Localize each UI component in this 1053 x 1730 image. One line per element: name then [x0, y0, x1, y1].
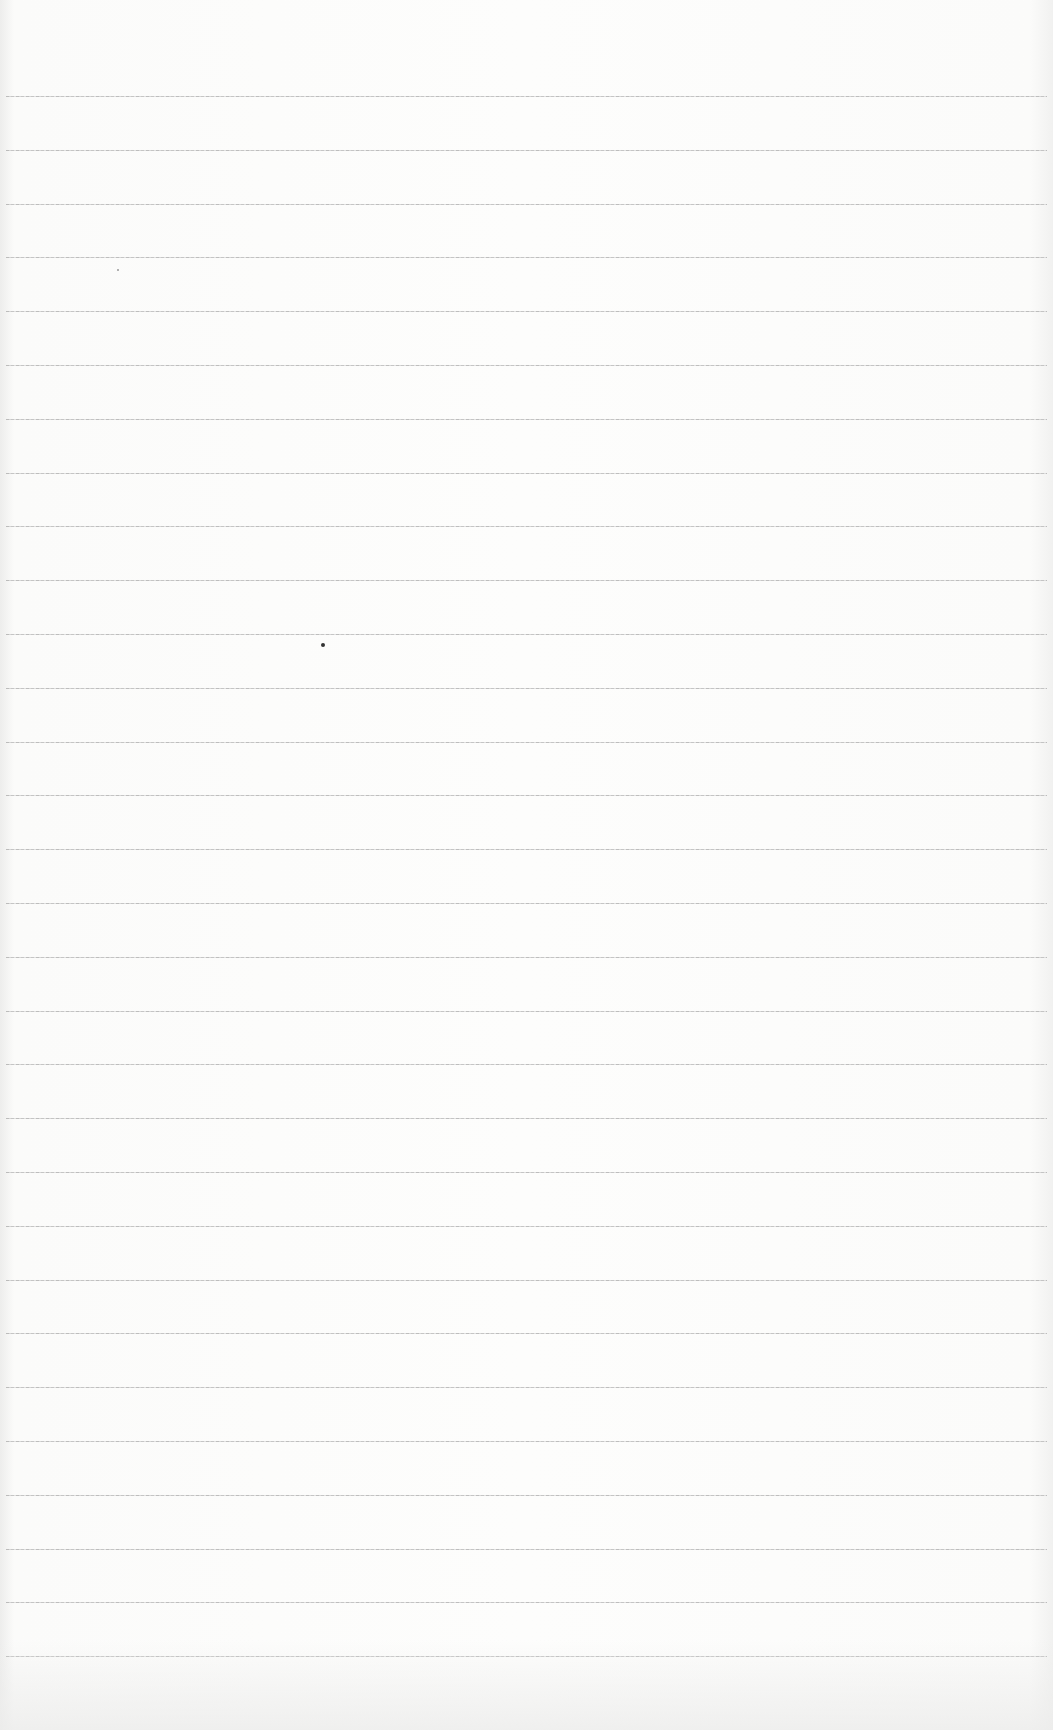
ink-speck [117, 269, 119, 271]
ruled-line [6, 903, 1047, 904]
ruled-line [6, 1495, 1047, 1496]
ruled-paper-page [0, 0, 1053, 1730]
ruled-line [6, 311, 1047, 312]
paper-edge-shadow [0, 1640, 1053, 1730]
ruled-line [6, 1118, 1047, 1119]
ruled-line [6, 150, 1047, 151]
ruled-line [6, 849, 1047, 850]
ruled-line [6, 96, 1047, 97]
ruled-line [6, 419, 1047, 420]
ruled-line [6, 742, 1047, 743]
ruled-line [6, 1602, 1047, 1603]
ruled-line [6, 1387, 1047, 1388]
ruled-line [6, 634, 1047, 635]
ruled-line [6, 365, 1047, 366]
ruled-line [6, 204, 1047, 205]
ruled-line [6, 688, 1047, 689]
ruled-line [6, 526, 1047, 527]
ruled-line [6, 1333, 1047, 1334]
ruled-line [6, 1441, 1047, 1442]
ruled-line [6, 1226, 1047, 1227]
ruled-line [6, 1172, 1047, 1173]
ruled-line [6, 473, 1047, 474]
ruled-line [6, 1549, 1047, 1550]
ruled-line [6, 795, 1047, 796]
ruled-line [6, 580, 1047, 581]
ruled-line [6, 1280, 1047, 1281]
ruled-line [6, 257, 1047, 258]
ruled-line [6, 957, 1047, 958]
ink-speck [321, 643, 325, 647]
ruled-line [6, 1011, 1047, 1012]
ruled-line [6, 1064, 1047, 1065]
